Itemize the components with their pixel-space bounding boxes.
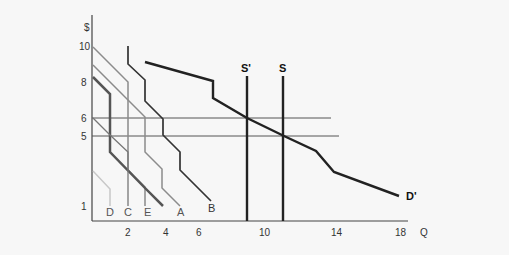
y-tick: 10 [79,41,91,52]
chart: $ Q 1 5 6 8 10 2 4 6 10 14 18 D C E A B … [0,0,509,255]
curve-d [93,171,110,206]
label-d-prime: D' [406,190,417,202]
label-a: A [177,206,185,218]
y-ticks: 1 5 6 8 10 [79,41,91,212]
x-tick: 18 [395,227,407,238]
axes: $ Q [84,15,428,238]
x-ticks: 2 4 6 10 14 18 [125,227,407,238]
x-tick: 14 [331,227,343,238]
label-e: E [144,206,151,218]
curve-d-prime [145,62,399,196]
x-tick: 6 [196,227,202,238]
x-tick: 10 [259,227,271,238]
label-b: B [208,202,215,214]
label-d: D [106,206,114,218]
y-tick: 1 [81,201,87,212]
label-c: C [124,206,132,218]
y-tick: 8 [81,77,87,88]
x-tick: 2 [125,227,131,238]
x-tick: 4 [163,227,169,238]
x-axis-label: Q [420,227,428,238]
label-s-prime: S' [241,62,251,74]
label-s: S [279,62,286,74]
y-tick: 6 [81,113,87,124]
y-axis-label: $ [84,22,90,33]
y-tick: 5 [81,131,87,142]
